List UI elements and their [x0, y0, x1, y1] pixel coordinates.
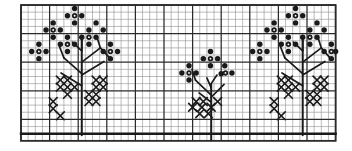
blossom-dot-symbol: [300, 13, 305, 18]
blossom-dot-center: [67, 43, 69, 45]
blossom-dot-symbol: [36, 56, 41, 61]
blossom-dot-symbol: [101, 49, 106, 54]
blossom-dot-symbol: [43, 49, 48, 54]
blossom-dot-symbol: [193, 70, 198, 75]
blossom-dot-symbol: [186, 77, 191, 82]
blossom-dot-center: [188, 72, 190, 74]
blossom-dot-center: [52, 29, 54, 31]
blossom-dot-symbol: [250, 49, 255, 54]
blossom-dot-symbol: [29, 49, 34, 54]
blossom-dot-symbol: [50, 20, 55, 25]
blossom-dot-symbol: [329, 42, 334, 47]
blossom-dot-symbol: [93, 20, 98, 25]
blossom-dot-symbol: [108, 56, 113, 61]
blossom-dot-symbol: [264, 49, 269, 54]
blossom-dot-center: [287, 43, 289, 45]
blossom-dot-symbol: [93, 34, 98, 39]
blossom-dot-symbol: [65, 49, 70, 54]
blossom-dot-symbol: [101, 27, 106, 32]
blossom-dot-symbol: [307, 27, 312, 32]
blossom-dot-symbol: [293, 6, 298, 11]
blossom-dot-symbol: [300, 34, 305, 39]
blossom-center-dot-symbol: [257, 49, 262, 54]
blossom-center-dot-symbol: [307, 34, 312, 39]
blossom-dot-center: [295, 15, 297, 17]
blossom-center-dot-symbol: [329, 49, 334, 54]
blossom-dot-symbol: [208, 49, 213, 54]
blossom-dot-symbol: [279, 27, 284, 32]
blossom-center-dot-symbol: [186, 70, 191, 75]
blossom-dot-symbol: [115, 49, 120, 54]
blossom-dot-symbol: [72, 6, 77, 11]
blossom-dot-symbol: [79, 13, 84, 18]
blossom-dot-symbol: [293, 20, 298, 25]
blossom-dot-symbol: [36, 42, 41, 47]
blossom-dot-symbol: [43, 27, 48, 32]
blossom-dot-center: [225, 72, 227, 74]
blossom-dot-symbol: [208, 63, 213, 68]
blossom-center-dot-symbol: [86, 34, 91, 39]
blossom-dot-symbol: [329, 56, 334, 61]
blossom-dot-center: [259, 51, 261, 53]
blossom-dot-symbol: [72, 42, 77, 47]
blossom-dot-symbol: [65, 34, 70, 39]
blossom-dot-symbol: [257, 56, 262, 61]
blossom-dot-center: [309, 36, 311, 38]
blossom-dot-symbol: [79, 34, 84, 39]
blossom-dot-center: [273, 29, 275, 31]
blossom-dot-symbol: [58, 42, 63, 47]
blossom-dot-symbol: [314, 20, 319, 25]
pattern-chart-svg: [0, 0, 352, 151]
blossom-dot-symbol: [222, 63, 227, 68]
blossom-dot-symbol: [293, 42, 298, 47]
blossom-dot-symbol: [279, 42, 284, 47]
blossom-dot-symbol: [201, 56, 206, 61]
blossom-center-dot-symbol: [108, 49, 113, 54]
pattern-chart-root: [0, 0, 352, 151]
blossom-dot-symbol: [321, 49, 326, 54]
blossom-dot-symbol: [58, 27, 63, 32]
blossom-center-dot-symbol: [72, 13, 77, 18]
blossom-dot-symbol: [86, 42, 91, 47]
blossom-dot-center: [109, 51, 111, 53]
blossom-dot-symbol: [314, 34, 319, 39]
blossom-center-dot-symbol: [286, 42, 291, 47]
blossom-dot-symbol: [321, 27, 326, 32]
blossom-center-dot-symbol: [223, 70, 228, 75]
blossom-dot-symbol: [108, 42, 113, 47]
blossom-dot-symbol: [257, 42, 262, 47]
blossom-dot-symbol: [72, 20, 77, 25]
blossom-center-dot-symbol: [65, 42, 70, 47]
blossom-center-dot-symbol: [208, 56, 213, 61]
blossom-dot-symbol: [271, 34, 276, 39]
blossom-dot-center: [210, 58, 212, 60]
blossom-dot-symbol: [179, 70, 184, 75]
blossom-dot-symbol: [50, 34, 55, 39]
blossom-dot-symbol: [65, 13, 70, 18]
blossom-dot-center: [88, 36, 90, 38]
blossom-dot-symbol: [271, 20, 276, 25]
blossom-dot-symbol: [307, 42, 312, 47]
blossom-dot-center: [74, 15, 76, 17]
blossom-dot-symbol: [229, 70, 234, 75]
blossom-dot-symbol: [286, 49, 291, 54]
blossom-dot-symbol: [264, 27, 269, 32]
blossom-dot-symbol: [186, 63, 191, 68]
blossom-dot-symbol: [215, 56, 220, 61]
blossom-center-dot-symbol: [50, 27, 55, 32]
blossom-dot-center: [330, 51, 332, 53]
blossom-dot-center: [38, 51, 40, 53]
blossom-dot-symbol: [286, 34, 291, 39]
blossom-dot-symbol: [286, 13, 291, 18]
blossom-dot-symbol: [86, 27, 91, 32]
blossom-center-dot-symbol: [36, 49, 41, 54]
blossom-center-dot-symbol: [271, 27, 276, 32]
blossom-center-dot-symbol: [293, 13, 298, 18]
